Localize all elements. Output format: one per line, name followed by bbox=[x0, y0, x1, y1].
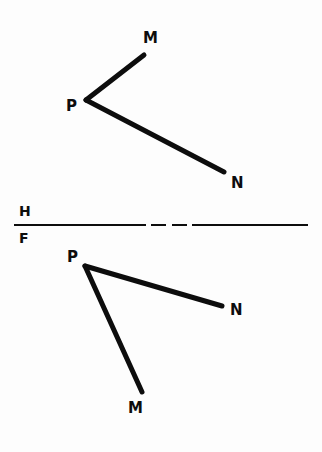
geometry-svg bbox=[0, 0, 322, 452]
top-view-label-p: P bbox=[66, 99, 77, 114]
top-view-label-m: M bbox=[143, 31, 158, 46]
fold-line-label-h: H bbox=[19, 204, 31, 218]
top-view-segment-PM bbox=[86, 55, 144, 100]
front-view-group bbox=[85, 266, 222, 392]
front-view-label-p: P bbox=[67, 250, 78, 265]
top-view-label-n: N bbox=[231, 176, 244, 191]
projection-drawing-canvas: H F P M N P M N bbox=[0, 0, 322, 452]
front-view-label-n: N bbox=[230, 303, 243, 318]
top-view-segment-PN bbox=[86, 100, 224, 172]
front-view-label-m: M bbox=[128, 401, 143, 416]
fold-line-label-f: F bbox=[19, 231, 29, 245]
front-view-segment-PN bbox=[85, 266, 222, 306]
front-view-segment-PM bbox=[85, 266, 142, 392]
top-view-group bbox=[86, 55, 224, 172]
